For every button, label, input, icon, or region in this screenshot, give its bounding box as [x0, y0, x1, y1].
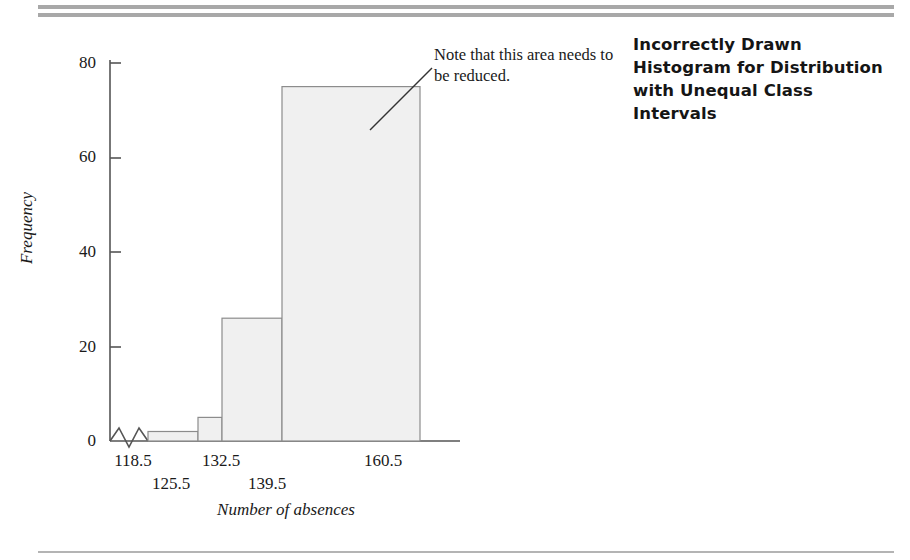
histogram-bar-125.5-132.5 [198, 417, 222, 441]
x-tick-label-139.5: 139.5 [232, 474, 302, 494]
x-tick-label-160.5: 160.5 [348, 451, 418, 471]
x-tick-label-118.5: 118.5 [98, 451, 168, 471]
y-tick-label-60: 60 [52, 147, 96, 167]
x-axis-break-zigzag [110, 428, 148, 447]
y-tick-label-20: 20 [52, 337, 96, 357]
y-tick-label-40: 40 [52, 242, 96, 262]
histogram-bar-118.5-125.5 [148, 432, 198, 442]
chart-annotation: Note that this area needs to be reduced. [434, 44, 619, 86]
x-tick-label-125.5: 125.5 [136, 474, 206, 494]
figure-title: Incorrectly Drawn Histogram for Distribu… [633, 33, 883, 125]
histogram-bar-139.5-160.5 [282, 87, 420, 441]
x-axis-title: Number of absences [176, 500, 396, 520]
y-tick-label-80: 80 [52, 53, 96, 73]
histogram-bar-132.5-139.5 [222, 318, 282, 441]
figure-container: Incorrectly Drawn Histogram for Distribu… [0, 0, 910, 560]
y-axis-title: Frequency [17, 163, 37, 293]
y-tick-label-0: 0 [52, 431, 96, 451]
x-tick-label-132.5: 132.5 [186, 451, 256, 471]
